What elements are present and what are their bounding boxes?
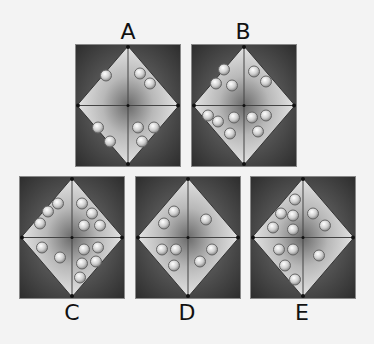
ball-icon xyxy=(101,70,112,81)
ball-icon xyxy=(261,110,272,121)
ball-icon xyxy=(290,274,301,285)
ball-icon xyxy=(176,104,180,108)
ball-icon xyxy=(301,177,305,181)
ball-icon xyxy=(280,260,291,271)
option-panel-c[interactable] xyxy=(19,176,125,299)
ball-icon xyxy=(169,206,180,217)
ball-icon xyxy=(93,122,104,133)
ball-icon xyxy=(242,162,246,166)
ball-icon xyxy=(187,236,190,239)
ball-icon xyxy=(253,126,264,137)
ball-icon xyxy=(320,220,331,231)
ball-icon xyxy=(308,208,319,219)
option-panel-a[interactable] xyxy=(75,44,181,167)
ball-icon xyxy=(268,222,279,233)
ball-icon xyxy=(292,104,296,108)
ball-icon xyxy=(20,236,24,240)
ball-icon xyxy=(274,244,285,255)
ball-icon xyxy=(195,256,206,267)
ball-icon xyxy=(136,236,140,240)
ball-icon xyxy=(127,104,130,107)
ball-icon xyxy=(186,177,190,181)
ball-icon xyxy=(302,236,305,239)
ball-icon xyxy=(43,206,54,217)
ball-icon xyxy=(171,244,182,255)
ball-icon xyxy=(37,242,48,253)
ball-icon xyxy=(157,244,168,255)
ball-icon xyxy=(76,104,80,108)
ball-icon xyxy=(251,236,255,240)
ball-icon xyxy=(229,112,240,123)
ball-icon xyxy=(247,112,258,123)
label-b: B xyxy=(228,21,258,43)
ball-icon xyxy=(75,272,86,283)
ball-icon xyxy=(79,220,90,231)
option-panel-e[interactable] xyxy=(250,176,356,299)
ball-icon xyxy=(149,122,160,133)
ball-icon xyxy=(301,294,305,298)
ball-icon xyxy=(87,208,98,219)
ball-icon xyxy=(55,252,66,263)
label-a: A xyxy=(113,21,143,43)
ball-icon xyxy=(126,162,130,166)
ball-icon xyxy=(203,110,214,121)
ball-icon xyxy=(288,224,299,235)
ball-icon xyxy=(133,122,144,133)
ball-icon xyxy=(137,136,148,147)
ball-icon xyxy=(249,66,260,77)
ball-icon xyxy=(207,244,218,255)
option-panel-d[interactable] xyxy=(135,176,241,299)
ball-icon xyxy=(120,236,124,240)
ball-icon xyxy=(91,256,102,267)
ball-icon xyxy=(276,208,287,219)
ball-icon xyxy=(53,198,64,209)
ball-icon xyxy=(288,210,299,221)
ball-icon xyxy=(105,136,116,147)
ball-icon xyxy=(95,220,106,231)
ball-icon xyxy=(71,236,74,239)
ball-icon xyxy=(290,194,301,205)
option-panel-b[interactable] xyxy=(191,44,297,167)
ball-icon xyxy=(145,78,156,89)
label-d: D xyxy=(172,302,202,324)
ball-icon xyxy=(201,214,212,225)
ball-icon xyxy=(236,236,240,240)
ball-icon xyxy=(219,64,230,75)
label-c: C xyxy=(57,302,87,324)
ball-icon xyxy=(227,80,238,91)
ball-icon xyxy=(242,45,246,49)
ball-icon xyxy=(135,68,146,79)
ball-icon xyxy=(192,104,196,108)
ball-icon xyxy=(126,45,130,49)
ball-icon xyxy=(79,244,90,255)
ball-icon xyxy=(243,104,246,107)
ball-icon xyxy=(70,294,74,298)
ball-icon xyxy=(261,76,272,87)
ball-icon xyxy=(211,78,222,89)
ball-icon xyxy=(351,236,355,240)
ball-icon xyxy=(186,294,190,298)
ball-icon xyxy=(35,218,46,229)
ball-icon xyxy=(93,242,104,253)
ball-icon xyxy=(213,116,224,127)
ball-icon xyxy=(314,250,325,261)
ball-icon xyxy=(288,244,299,255)
ball-icon xyxy=(77,258,88,269)
ball-icon xyxy=(169,260,180,271)
ball-icon xyxy=(225,128,236,139)
ball-icon xyxy=(77,198,88,209)
ball-icon xyxy=(70,177,74,181)
label-e: E xyxy=(287,302,317,324)
ball-icon xyxy=(159,218,170,229)
